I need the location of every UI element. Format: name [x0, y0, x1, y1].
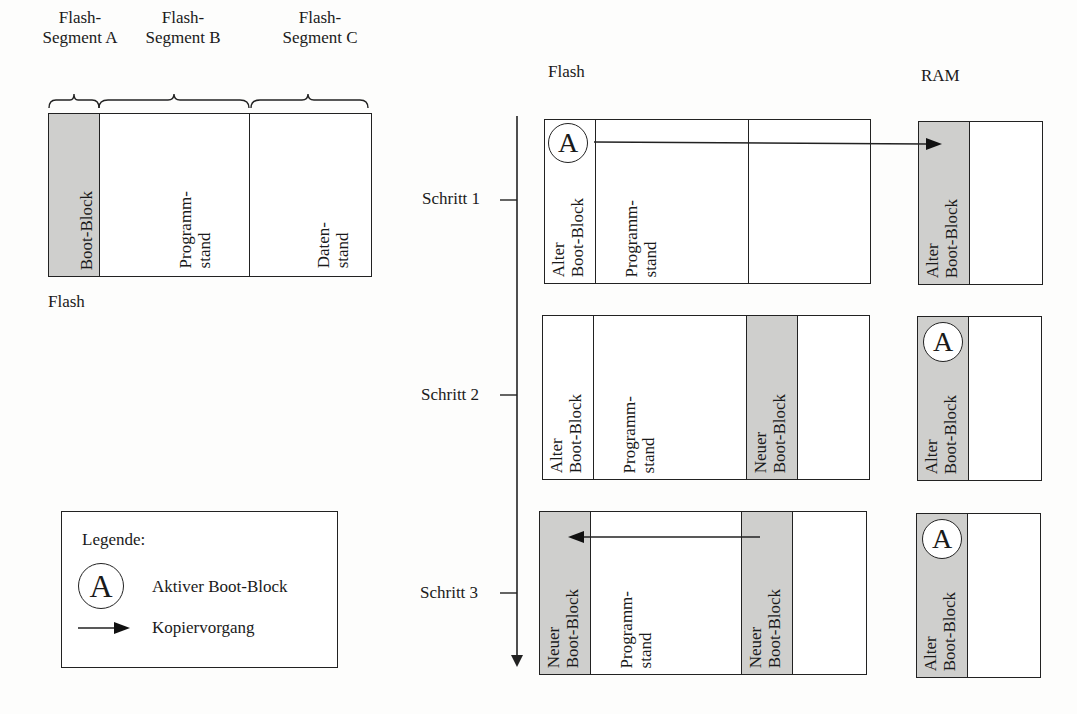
circle-a-icon: A [78, 563, 124, 609]
arrow-right-icon [78, 614, 158, 644]
legend-box: Legende: A Aktiver Boot-Block Kopiervorg… [61, 511, 338, 668]
copy-arrow-step-1-icon [594, 138, 942, 150]
legend-active-boot-block-label: Aktiver Boot-Block [152, 577, 288, 597]
legend-copy-label: Kopiervorgang [152, 618, 255, 638]
copy-arrow-step-3-icon [568, 531, 760, 543]
legend-title: Legende: [82, 530, 145, 550]
